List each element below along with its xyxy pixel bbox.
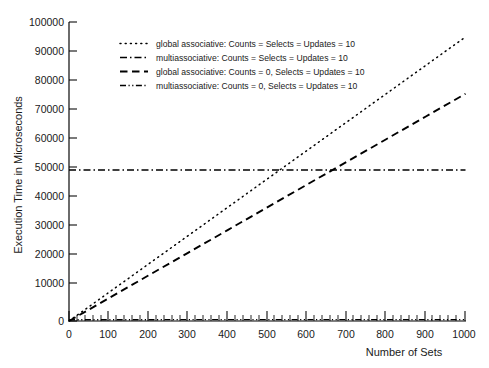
x-tick-label: 200 xyxy=(139,328,157,340)
x-axis-title: Number of Sets xyxy=(366,346,443,358)
legend-label: global associative: Counts = 0, Selects … xyxy=(156,67,365,77)
x-tick-label: 100 xyxy=(99,328,117,340)
y-tick-label: 100000 xyxy=(29,16,64,28)
legend-entry-0: global associative: Counts = Selects = U… xyxy=(120,39,355,49)
y-axis-title: Execution Time in Microseconds xyxy=(12,96,24,254)
legend-entry-3: multiassociative: Counts = 0, Selects = … xyxy=(120,81,358,91)
legend-label: multiassociative: Counts = 0, Selects = … xyxy=(156,81,358,91)
x-tick-label: 800 xyxy=(376,328,394,340)
y-tick-label: 80000 xyxy=(35,74,64,86)
y-tick-label: 70000 xyxy=(35,103,64,115)
y-tick-label: 50000 xyxy=(35,161,64,173)
legend-entry-2: global associative: Counts = 0, Selects … xyxy=(120,67,365,77)
x-tick-label: 600 xyxy=(297,328,315,340)
y-tick-label: 30000 xyxy=(35,219,64,231)
x-tick-label: 500 xyxy=(258,328,276,340)
line-chart-canvas: Execution Time in Microseconds 100000 90… xyxy=(0,0,489,368)
y-tick-label: 60000 xyxy=(35,132,64,144)
x-tick-label: 900 xyxy=(416,328,434,340)
chart-figure: Execution Time in Microseconds 100000 90… xyxy=(0,0,489,368)
x-tick-label: 400 xyxy=(218,328,236,340)
y-tick-label: 0 xyxy=(58,315,64,327)
y-tick-label: 20000 xyxy=(35,248,64,260)
y-tick-label: 40000 xyxy=(35,190,64,202)
legend-label: multiassociative: Counts = Selects = Upd… xyxy=(156,53,348,63)
y-tick-label: 10000 xyxy=(35,277,64,289)
legend-label: global associative: Counts = Selects = U… xyxy=(156,39,355,49)
y-tick-label: 90000 xyxy=(35,45,64,57)
x-tick-label: 700 xyxy=(337,328,355,340)
x-tick-label: 300 xyxy=(178,328,196,340)
x-tick-label: 1000 xyxy=(452,328,476,340)
x-tick-label: 0 xyxy=(66,328,72,340)
